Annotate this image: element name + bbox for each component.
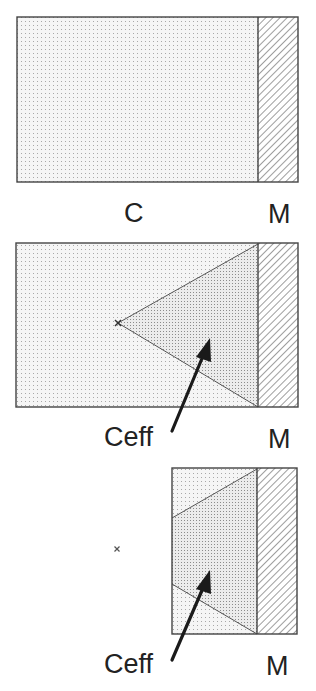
- panel-3: Ceff M: [104, 468, 297, 681]
- label-effective-cathode: Ceff: [104, 422, 154, 452]
- panel-2: Ceff M: [16, 243, 298, 454]
- label-metal: M: [266, 651, 289, 681]
- metal-region: [258, 17, 298, 182]
- point-source-marker-icon: [115, 547, 120, 552]
- metal-region: [258, 243, 298, 407]
- metal-region: [257, 468, 297, 634]
- label-metal: M: [268, 424, 291, 454]
- diagram-canvas: C M Ceff M: [0, 0, 316, 691]
- label-effective-cathode: Ceff: [104, 649, 154, 679]
- panel-1: C M: [17, 17, 298, 229]
- cathode-region: [17, 17, 258, 182]
- label-metal: M: [268, 199, 291, 229]
- label-cathode: C: [124, 198, 144, 228]
